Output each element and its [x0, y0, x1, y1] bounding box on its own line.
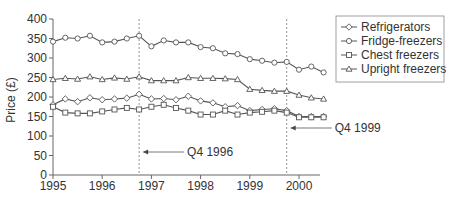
price-line-chart: 050100150200250300350400 199519961997199…: [0, 0, 451, 197]
x-tick-label: 1996: [89, 179, 116, 193]
legend-label: Chest freezers: [361, 48, 439, 62]
x-tick-label: 2000: [286, 179, 313, 193]
annotation-label: Q4 1999: [335, 121, 381, 135]
series-chest-freezers: [51, 102, 327, 119]
y-tick-label: 150: [27, 110, 47, 124]
y-tick-label: 50: [34, 149, 48, 163]
legend-label: Fridge-freezers: [361, 34, 442, 48]
x-tick-label: 1995: [40, 179, 67, 193]
y-axis-label: Price (£): [4, 77, 18, 122]
y-tick-label: 300: [27, 51, 47, 65]
y-axis: 050100150200250300350400: [27, 12, 53, 182]
legend: RefrigeratorsFridge-freezersChest freeze…: [336, 16, 446, 82]
series-fridge-freezers: [50, 33, 326, 75]
y-tick-label: 200: [27, 90, 47, 104]
x-tick-label: 1997: [138, 179, 165, 193]
y-tick-label: 100: [27, 129, 47, 143]
y-tick-label: 350: [27, 32, 47, 46]
x-tick-label: 1998: [187, 179, 214, 193]
x-tick-label: 1999: [236, 179, 263, 193]
annotation-label: Q4 1996: [187, 145, 233, 159]
y-tick-label: 250: [27, 71, 47, 85]
series-lines: [50, 33, 327, 120]
legend-label: Upright freezers: [361, 62, 446, 76]
legend-label: Refrigerators: [361, 20, 430, 34]
y-tick-label: 400: [27, 12, 47, 26]
x-axis: 199519961997199819992000: [40, 175, 320, 193]
